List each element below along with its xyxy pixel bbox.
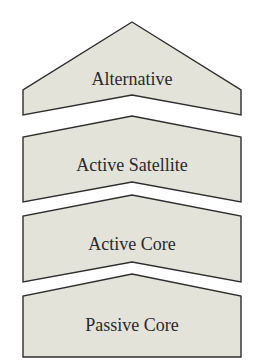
layer-active-core: Active Core bbox=[23, 195, 241, 282]
layer-alternative-label: Alternative bbox=[92, 69, 173, 89]
layer-alternative: Alternative bbox=[23, 22, 241, 115]
layer-active-core-label: Active Core bbox=[88, 234, 175, 254]
layer-passive-core: Passive Core bbox=[23, 274, 241, 357]
layer-passive-core-label: Passive Core bbox=[85, 315, 179, 335]
layer-active-satellite-label: Active Satellite bbox=[76, 155, 187, 175]
layer-stack-diagram: Alternative Active Satellite Active Core… bbox=[0, 0, 255, 361]
layer-active-satellite: Active Satellite bbox=[23, 116, 241, 202]
